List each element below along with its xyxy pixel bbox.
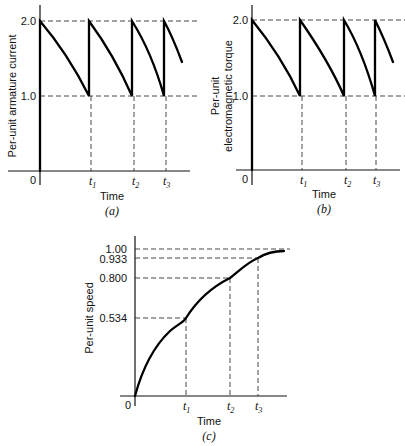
x-tick-t2: t2	[344, 173, 351, 189]
chart-b: 2.0 1.0 0 t1 t2 t3 Time (b) Per-unit ele…	[209, 5, 405, 216]
caption-b: (b)	[317, 202, 331, 216]
origin-label: 0	[242, 173, 248, 185]
x-tick-t2: t2	[132, 174, 139, 190]
x-tick-t1: t1	[89, 174, 96, 190]
y-tick-2.0: 2.0	[233, 14, 248, 26]
x-tick-t3: t3	[373, 173, 380, 189]
caption-c: (c)	[202, 429, 215, 443]
x-axis-label: Time	[312, 188, 336, 200]
y-axis-label: Per-unit speed	[83, 282, 95, 354]
origin-label: 0	[30, 174, 36, 186]
x-tick-t1: t1	[300, 173, 307, 189]
speed-curve	[135, 251, 284, 396]
x-axis-label: Time	[100, 190, 124, 202]
figure: .axis { stroke:#111; stroke-width:1.2; f…	[0, 0, 405, 446]
y-tick-0.534: 0.534	[99, 312, 127, 324]
y-axis-label-line1: Per-unit	[209, 77, 221, 116]
caption-a: (a)	[105, 204, 119, 218]
torque-curve	[252, 20, 393, 170]
x-tick-t3: t3	[255, 399, 262, 415]
x-tick-t3: t3	[163, 174, 170, 190]
y-tick-0.800: 0.800	[99, 272, 127, 284]
origin-label: 0	[125, 399, 131, 411]
x-tick-t1: t1	[183, 399, 190, 415]
y-tick-0.933: 0.933	[99, 253, 127, 265]
x-tick-t2: t2	[227, 399, 234, 415]
y-tick-1.0: 1.0	[233, 90, 248, 102]
x-axis-label: Time	[197, 415, 221, 427]
y-tick-2.0: 2.0	[21, 15, 36, 27]
y-axis-label-line2: electromagnetic torque	[222, 40, 234, 152]
y-axis-label: Per-unit armature current	[6, 35, 18, 158]
chart-c: 1.00 0.933 0.800 0.534 0 t1 t2 t3 Time (…	[83, 236, 290, 443]
chart-a: 2.0 1.0 0 t1 t2 t3 Time (a) Per-unit arm…	[6, 5, 198, 218]
y-tick-1.0: 1.0	[21, 90, 36, 102]
